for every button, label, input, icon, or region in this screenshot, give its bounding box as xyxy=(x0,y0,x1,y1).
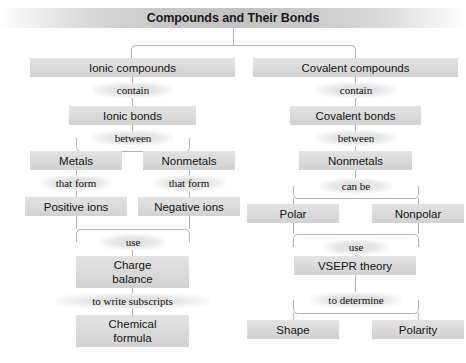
node-positive-ions[interactable]: Positive ions xyxy=(25,197,127,216)
connector-ionic-1b xyxy=(132,98,133,106)
connector-polarity-down xyxy=(418,313,419,320)
node-polarity[interactable]: Polarity xyxy=(372,320,464,339)
node-nonmetals-ionic[interactable]: Nonmetals xyxy=(143,151,235,170)
node-covalent-bonds[interactable]: Covalent bonds xyxy=(290,106,421,125)
connector-split-left xyxy=(131,45,234,59)
connector-ionic-split-right xyxy=(132,138,190,152)
connector-covalent-1b xyxy=(355,98,356,106)
connector-title-down xyxy=(233,28,234,45)
connector-split-right xyxy=(233,45,356,59)
node-negative-ions[interactable]: Negative ions xyxy=(138,197,240,216)
connector-nonpolar-merge-down xyxy=(418,223,419,234)
label-to-write-subscripts: to write subscripts xyxy=(56,293,209,309)
label-metals-that-form: that form xyxy=(40,175,112,191)
node-vsepr-theory[interactable]: VSEPR theory xyxy=(294,256,416,275)
label-ionic-contain: contain xyxy=(93,82,173,98)
label-ionic-use: use xyxy=(100,234,166,250)
node-metals[interactable]: Metals xyxy=(30,151,122,170)
node-nonpolar[interactable]: Nonpolar xyxy=(372,204,464,223)
node-charge-balance[interactable]: Charge balance xyxy=(76,256,189,288)
node-ionic-bonds[interactable]: Ionic bonds xyxy=(69,106,196,125)
node-chemical-formula[interactable]: Chemical formula xyxy=(76,315,189,347)
concept-map-diagram: Compounds and Their Bonds Ionic compound… xyxy=(0,0,466,363)
connector-posions-down xyxy=(76,216,77,229)
label-nonmetals-that-form: that form xyxy=(153,175,225,191)
page-title: Compounds and Their Bonds xyxy=(147,11,320,25)
node-nonmetals-covalent[interactable]: Nonmetals xyxy=(299,151,412,170)
connector-negions-down xyxy=(189,216,190,229)
label-covalent-use: use xyxy=(323,239,389,255)
diagram-title-banner: Compounds and Their Bonds xyxy=(0,8,466,28)
node-shape[interactable]: Shape xyxy=(247,320,339,339)
connector-ionic-split-left xyxy=(76,138,134,152)
connector-vsepr-down xyxy=(355,275,356,292)
connector-shape-down xyxy=(293,313,294,320)
connector-result-split-left xyxy=(293,300,357,314)
connector-result-split-right xyxy=(355,300,419,314)
node-ionic-compounds[interactable]: Ionic compounds xyxy=(30,58,235,77)
node-covalent-compounds[interactable]: Covalent compounds xyxy=(253,58,458,77)
label-covalent-contain: contain xyxy=(316,82,396,98)
node-polar[interactable]: Polar xyxy=(247,204,339,223)
connector-covalent-split-right xyxy=(355,186,419,199)
connector-covalent-split-left xyxy=(293,186,357,199)
connector-covalent-3a xyxy=(355,170,356,178)
label-covalent-between: between xyxy=(315,130,397,146)
connector-polar-merge-down xyxy=(293,223,294,234)
